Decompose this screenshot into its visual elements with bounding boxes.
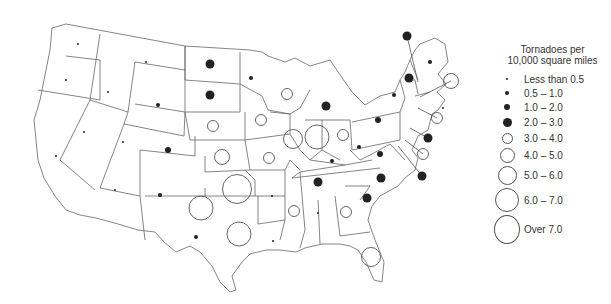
legend-item: 4.0 – 5.0 [494, 146, 611, 164]
state-marker-missouri [264, 153, 275, 164]
legend-title-line-1: Tornadoes per [494, 44, 611, 55]
state-marker-mississippi [289, 206, 300, 217]
state-symbols [55, 32, 459, 267]
legend-item-label: 1.0 – 2.0 [524, 102, 563, 113]
legend-title-line-2: 10,000 square miles [494, 55, 611, 66]
state-marker-kansas [215, 150, 230, 165]
open-circle-icon [494, 130, 520, 146]
filled-circle-icon [494, 100, 520, 114]
state-marker-new-mexico [158, 193, 162, 197]
legend-title: Tornadoes per 10,000 square miles [494, 44, 611, 66]
state-marker-arizona [114, 189, 116, 191]
state-marker-idaho [107, 91, 109, 93]
legend-item: 6.0 – 7.0 [494, 186, 611, 213]
state-marker-indiana [305, 125, 329, 149]
state-marker-iowa [256, 115, 267, 126]
state-marker-michigan [322, 102, 331, 111]
state-marker-north-carolina [377, 174, 386, 183]
state-marker-colorado [165, 147, 171, 153]
state-marker-alabama [317, 212, 319, 214]
state-marker-texas-panhandle [189, 196, 213, 220]
state-marker-georgia [341, 207, 352, 218]
legend-item-label: 6.0 – 7.0 [524, 194, 563, 205]
legend-item: Less than 0.5 [494, 72, 611, 86]
state-marker-oregon [65, 79, 67, 81]
legend-item-label: Over 7.0 [524, 224, 562, 235]
state-marker-california [55, 155, 57, 157]
state-marker-new-hampshire [403, 32, 412, 41]
state-marker-north-dakota [206, 60, 215, 69]
state-marker-florida [362, 248, 381, 267]
legend-item-label: 5.0 – 6.0 [524, 170, 563, 181]
state-marker-new-jersey [424, 134, 433, 143]
legend: Tornadoes per 10,000 square miles Less t… [494, 44, 611, 245]
state-marker-washington [77, 43, 79, 45]
state-marker-ohio [338, 130, 349, 141]
state-marker-minnesota [249, 76, 253, 80]
open-circle-icon [494, 213, 520, 245]
state-marker-tennessee [314, 178, 323, 187]
state-marker-louisiana [272, 240, 274, 242]
filled-circle-icon [494, 86, 520, 100]
state-marker-south-dakota [206, 91, 215, 100]
state-marker-montana [145, 61, 147, 63]
state-marker-wyoming [156, 103, 160, 107]
state-marker-texas-west [194, 235, 198, 239]
state-marker-maryland [418, 172, 427, 181]
state-marker-utah [122, 141, 124, 143]
state-marker-new-york [392, 93, 396, 97]
legend-items: Less than 0.50.5 – 1.01.0 – 2.02.0 – 3.0… [494, 72, 611, 245]
state-marker-wisconsin [282, 89, 293, 100]
state-marker-nevada [83, 131, 85, 133]
legend-item: 1.0 – 2.0 [494, 100, 611, 114]
state-marker-arkansas [271, 195, 273, 197]
state-marker-pennsylvania [375, 117, 381, 123]
leader-lines [398, 36, 451, 176]
state-marker-south-carolina [363, 194, 372, 203]
state-marker-west-virginia [357, 145, 361, 149]
state-marker-virginia [377, 151, 383, 157]
legend-item-label: 3.0 – 4.0 [524, 133, 563, 144]
open-circle-icon [494, 164, 520, 186]
legend-item-label: Less than 0.5 [524, 74, 584, 85]
state-marker-nebraska [208, 121, 219, 132]
filled-circle-icon [494, 72, 520, 86]
filled-circle-icon [494, 114, 520, 130]
state-marker-texas [227, 222, 251, 246]
state-marker-oklahoma [223, 175, 252, 204]
legend-item-label: 4.0 – 5.0 [524, 150, 563, 161]
legend-item-label: 2.0 – 3.0 [524, 117, 563, 128]
state-marker-kentucky [330, 159, 334, 163]
open-circle-icon [494, 186, 520, 213]
open-circle-icon [494, 146, 520, 164]
legend-item: 2.0 – 3.0 [494, 114, 611, 130]
legend-item: Over 7.0 [494, 213, 611, 245]
legend-item: 5.0 – 6.0 [494, 164, 611, 186]
legend-item-label: 0.5 – 1.0 [524, 88, 563, 99]
state-marker-rhode-island [442, 107, 444, 109]
state-marker-maine [428, 60, 432, 64]
legend-item: 3.0 – 4.0 [494, 130, 611, 146]
state-borders [34, 24, 448, 292]
state-marker-vermont [405, 74, 414, 83]
legend-item: 0.5 – 1.0 [494, 86, 611, 100]
